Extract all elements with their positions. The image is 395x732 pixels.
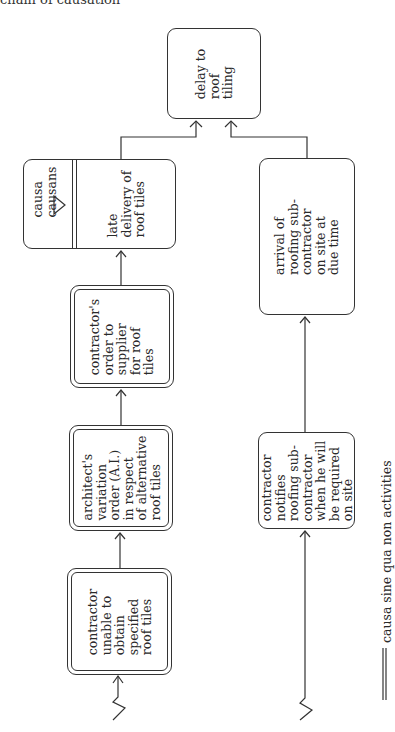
legend-label: causa sine qua non activities <box>379 460 394 643</box>
node-late-delivery: causa causans late delivery of roof tile… <box>23 159 176 249</box>
node-label: architect's variation order (A.I.) in re… <box>81 436 162 521</box>
node-label: contractor's order to supplier for roof … <box>88 298 156 374</box>
node-delay-to-roof-tiling: delay to roof tiling <box>167 28 261 119</box>
node-label: delay to roof tiling <box>194 48 235 98</box>
node-contractors-order: contractor's order to supplier for roof … <box>70 285 174 388</box>
node-contractor-unable: contractor unable to obtain specified ro… <box>67 568 172 675</box>
node-label: late delivery of roof tiles <box>105 170 146 237</box>
node-label: contractor notifies roofing sub- contrac… <box>259 440 354 520</box>
causa-causans-section: causa causans <box>24 160 73 248</box>
node-label: contractor unable to obtain specified ro… <box>86 588 154 655</box>
node-contractor-notifies: contractor notifies roofing sub- contrac… <box>258 432 355 529</box>
node-arrival-of-subcontractor: arrival of roofing sub- contractor on si… <box>259 158 355 315</box>
node-architects-variation-order: architect's variation order (A.I.) in re… <box>69 425 173 531</box>
node-label: arrival of roofing sub- contractor on si… <box>273 198 341 274</box>
triangle-marker-icon <box>52 195 68 215</box>
